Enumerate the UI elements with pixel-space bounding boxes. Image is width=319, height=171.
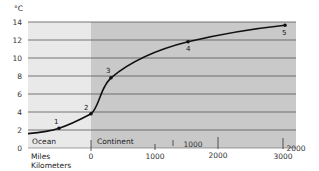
svg-text:10: 10	[12, 54, 22, 63]
svg-text:0: 0	[17, 144, 22, 153]
point-5-marker	[283, 24, 287, 28]
svg-text:0: 0	[89, 152, 94, 161]
svg-text:4: 4	[17, 108, 22, 117]
y-axis-ticks: 0 2 4 6 8 10 12 14	[12, 18, 22, 153]
kilometers-axis-label: Kilometers	[31, 161, 71, 170]
point-4-label: 4	[186, 45, 191, 53]
continent-label: Continent	[97, 137, 134, 146]
svg-text:3000: 3000	[273, 152, 292, 161]
point-4-marker	[186, 40, 190, 44]
svg-text:1000: 1000	[183, 140, 202, 149]
svg-text:1000: 1000	[145, 152, 164, 161]
svg-text:2000: 2000	[208, 151, 227, 160]
point-2-label: 2	[84, 104, 88, 112]
ocean-label: Ocean	[32, 137, 56, 146]
svg-text:12: 12	[12, 36, 22, 45]
point-1-label: 1	[54, 118, 58, 126]
point-3-marker	[109, 76, 113, 80]
kilometers-ticks: 0 1000 2000 3000	[89, 151, 293, 161]
miles-axis-label: Miles	[31, 152, 50, 161]
svg-text:2: 2	[17, 126, 22, 135]
point-2-marker	[89, 112, 93, 116]
point-1-marker	[57, 126, 61, 130]
y-axis-unit: °C	[14, 4, 23, 13]
svg-text:14: 14	[12, 18, 22, 27]
temperature-chart: °C 0 2 4 6 8 10 12 14 Ocean Continent 1 …	[0, 0, 319, 171]
svg-text:6: 6	[17, 90, 22, 99]
svg-text:8: 8	[17, 72, 22, 81]
point-5-label: 5	[282, 29, 286, 37]
point-3-label: 3	[106, 67, 110, 75]
